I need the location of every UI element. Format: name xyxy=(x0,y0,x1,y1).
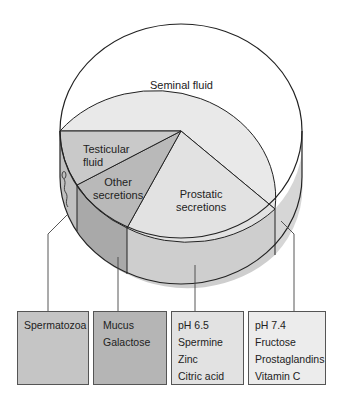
label-line: secretions xyxy=(176,201,226,214)
label-line: Testicular xyxy=(83,143,129,156)
label-other-secretions: Other secretions xyxy=(93,176,143,202)
label-line: secretions xyxy=(93,189,143,202)
label-line: Other xyxy=(93,176,143,189)
box-line: Mucus xyxy=(103,317,166,334)
box-line: pH 6.5 xyxy=(178,317,243,334)
label-seminal-fluid: Seminal fluid xyxy=(150,79,213,92)
box-line: Fructose xyxy=(255,334,325,351)
box-line: pH 7.4 xyxy=(255,317,325,334)
box-seminal: pH 7.4 Fructose Prostaglandins Vitamin C xyxy=(248,311,326,385)
box-line: Prostaglandins xyxy=(255,351,325,368)
box-line: Galactose xyxy=(103,334,166,351)
box-line: Spermine xyxy=(178,334,243,351)
box-line: Vitamin C xyxy=(255,368,325,385)
box-line: Citric acid xyxy=(178,368,243,385)
label-testicular-fluid: Testicular fluid xyxy=(83,143,129,169)
box-line: Zinc xyxy=(178,351,243,368)
box-line: Spermatozoa xyxy=(24,317,88,334)
label-line: Prostatic xyxy=(176,188,226,201)
box-prostatic: pH 6.5 Spermine Zinc Citric acid xyxy=(171,311,244,385)
box-spermatozoa: Spermatozoa xyxy=(17,311,89,385)
box-mucus: Mucus Galactose xyxy=(93,311,167,385)
label-line: fluid xyxy=(83,156,129,169)
label-prostatic-secretions: Prostatic secretions xyxy=(176,188,226,214)
